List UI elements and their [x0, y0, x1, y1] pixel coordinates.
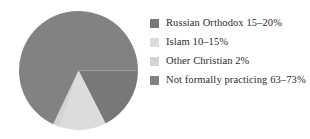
legend-label-not-formally-practicing: Not formally practicing 63–73%: [166, 73, 306, 87]
legend-item-islam: Islam 10–15%: [150, 35, 308, 54]
pie-chart-plot-area: [18, 10, 139, 131]
legend-item-not-formally-practicing: Not formally practicing 63–73%: [150, 73, 308, 92]
pie-slice-group: [19, 11, 138, 130]
legend-item-other-christian: Other Christian 2%: [150, 54, 308, 73]
legend-swatch-other-christian: [150, 57, 159, 66]
legend-swatch-russian-orthodox: [150, 19, 159, 28]
legend-item-russian-orthodox: Russian Orthodox 15–20%: [150, 16, 308, 35]
pie-chart-svg: [18, 10, 139, 131]
legend-label-other-christian: Other Christian 2%: [166, 54, 249, 68]
chart-legend: Russian Orthodox 15–20% Islam 10–15% Oth…: [150, 16, 308, 92]
legend-swatch-not-formally-practicing: [150, 76, 159, 85]
legend-label-islam: Islam 10–15%: [166, 35, 228, 49]
legend-swatch-islam: [150, 38, 159, 47]
pie-chart-figure: Russian Orthodox 15–20% Islam 10–15% Oth…: [0, 0, 310, 139]
legend-label-russian-orthodox: Russian Orthodox 15–20%: [166, 16, 282, 30]
